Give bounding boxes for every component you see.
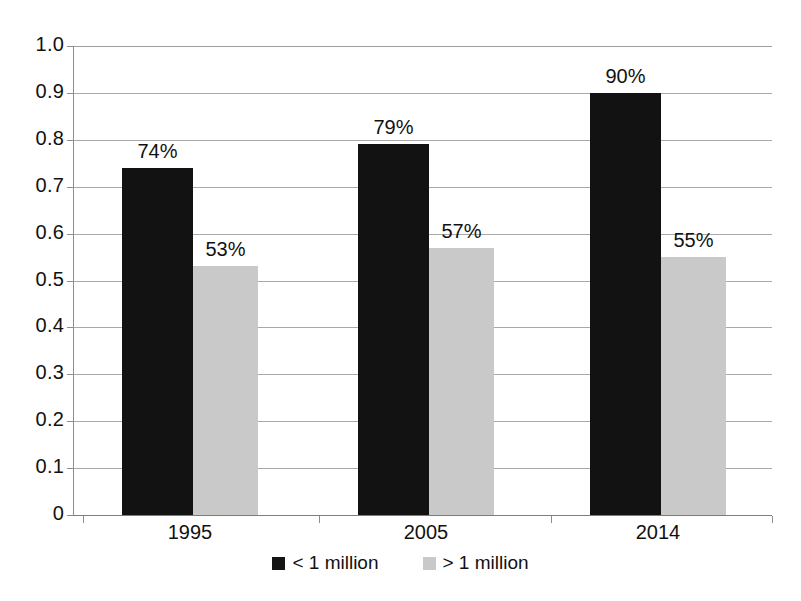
x-axis-label: 2014 — [636, 521, 681, 544]
bar — [661, 257, 726, 515]
bar — [590, 93, 661, 515]
plot-area — [73, 46, 772, 515]
bar-value-label: 55% — [673, 229, 713, 252]
x-axis-tick — [319, 516, 320, 523]
x-axis-tick — [772, 516, 773, 523]
y-axis-label: 0.6 — [8, 221, 64, 244]
y-axis-label: 0.4 — [8, 314, 64, 337]
chart-legend: < 1 million> 1 million — [0, 552, 801, 574]
bar-value-label: 79% — [373, 116, 413, 139]
legend-label: > 1 million — [443, 552, 529, 574]
y-axis-label: 0.8 — [8, 127, 64, 150]
bar — [193, 266, 258, 515]
x-axis-line — [73, 515, 772, 516]
x-axis-tick — [83, 516, 84, 523]
bar-value-label: 74% — [137, 140, 177, 163]
bar-chart: 1.00.90.80.70.60.50.40.30.20.10 74%53%79… — [0, 0, 801, 601]
x-axis-label: 1995 — [168, 521, 213, 544]
y-axis-label: 0.1 — [8, 455, 64, 478]
y-axis-label: 0.9 — [8, 80, 64, 103]
legend-label: < 1 million — [292, 552, 378, 574]
bar — [122, 168, 193, 515]
legend-item: < 1 million — [272, 552, 378, 574]
y-axis-label: 0.2 — [8, 408, 64, 431]
y-axis-label: 1.0 — [8, 33, 64, 56]
bar — [429, 248, 494, 515]
bar-value-label: 90% — [605, 65, 645, 88]
x-axis-label: 2005 — [404, 521, 449, 544]
bar — [358, 144, 429, 515]
legend-swatch-light — [423, 557, 436, 570]
legend-swatch-dark — [272, 557, 285, 570]
y-axis-label: 0.3 — [8, 361, 64, 384]
bar-value-label: 53% — [205, 238, 245, 261]
x-axis-tick — [551, 516, 552, 523]
y-axis-label: 0.7 — [8, 174, 64, 197]
bar-value-label: 57% — [441, 220, 481, 243]
y-axis-label: 0.5 — [8, 268, 64, 291]
legend-item: > 1 million — [423, 552, 529, 574]
y-axis-label: 0 — [8, 502, 64, 525]
